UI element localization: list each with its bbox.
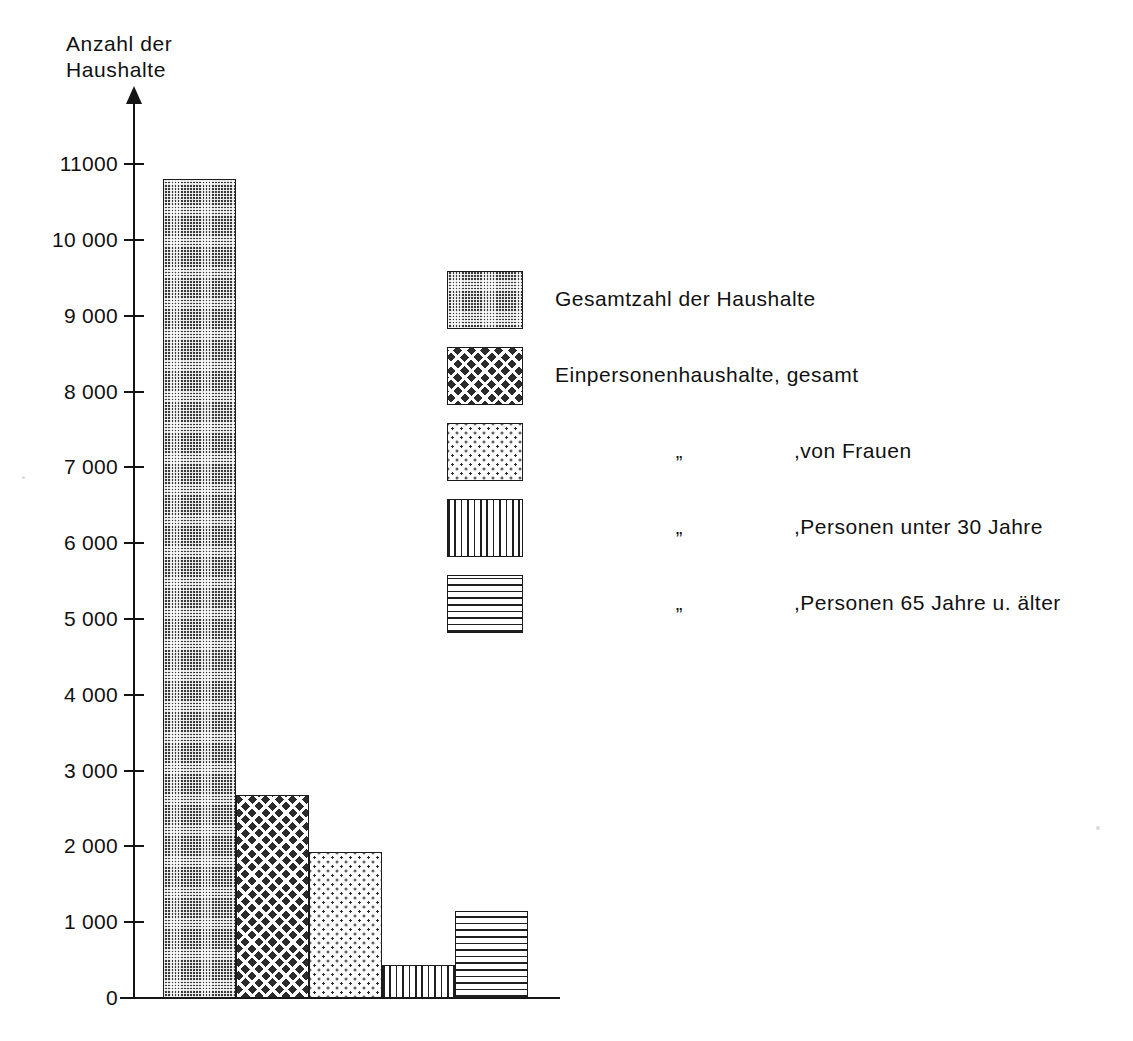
y-axis-tick-label-wrap: 1 000 xyxy=(0,911,118,932)
legend-label: Gesamtzahl der Haushalte xyxy=(555,287,816,311)
y-axis-tick-label: 2 000 xyxy=(22,835,118,856)
legend-ditto-mark: „ xyxy=(659,593,699,613)
legend-swatch-horizontal-lines xyxy=(447,575,523,633)
y-axis-tick-label: 5 000 xyxy=(22,608,118,629)
y-axis-tick-label-wrap: 11000 xyxy=(0,153,118,174)
y-axis-tick-label: 4 000 xyxy=(22,684,118,705)
legend-swatch-vertical-lines xyxy=(447,499,523,557)
legend-item: „,Personen 65 Jahre u. älter xyxy=(447,575,1107,633)
y-axis-tick-label: 0 xyxy=(22,987,118,1008)
legend-ditto-mark: „ xyxy=(659,517,699,537)
y-axis-tick xyxy=(124,466,144,468)
y-axis-tick xyxy=(124,770,144,772)
legend-ditto-mark: „ xyxy=(659,441,699,461)
legend-label: ,von Frauen xyxy=(794,439,912,463)
bar-2 xyxy=(236,795,309,998)
scan-speck xyxy=(1096,826,1100,830)
legend-item: Einpersonenhaushalte, gesamt xyxy=(447,347,1107,405)
y-axis-tick xyxy=(124,845,144,847)
y-axis-title: Anzahl derHaushalte xyxy=(66,31,172,83)
bar-1 xyxy=(163,179,236,998)
y-axis-tick-label-wrap: 6 000 xyxy=(0,532,118,553)
legend-swatch-dark-checker xyxy=(447,271,523,329)
bar-4 xyxy=(382,965,455,998)
y-axis-title-line2: Haushalte xyxy=(66,58,166,81)
y-axis-tick xyxy=(124,239,144,241)
scan-speck xyxy=(22,476,25,479)
legend-label: ,Personen 65 Jahre u. älter xyxy=(794,591,1061,615)
bar-3 xyxy=(309,852,382,998)
y-axis-tick-label: 3 000 xyxy=(22,760,118,781)
y-axis-tick-label: 11000 xyxy=(22,153,118,174)
legend-item: „,Personen unter 30 Jahre xyxy=(447,499,1107,557)
y-axis-tick-label: 9 000 xyxy=(22,305,118,326)
y-axis-line xyxy=(133,96,135,999)
y-axis-tick-label: 1 000 xyxy=(22,911,118,932)
y-axis-tick-label-wrap: 9 000 xyxy=(0,305,118,326)
y-axis-tick-label-wrap: 5 000 xyxy=(0,608,118,629)
y-axis-tick-label-wrap: 0 xyxy=(0,987,118,1008)
y-axis-tick xyxy=(124,694,144,696)
bar-5 xyxy=(455,911,528,998)
y-axis-tick xyxy=(124,997,144,999)
y-axis-tick-label-wrap: 4 000 xyxy=(0,684,118,705)
y-axis-tick xyxy=(124,618,144,620)
legend-label: ,Personen unter 30 Jahre xyxy=(794,515,1043,539)
y-axis-tick xyxy=(124,542,144,544)
y-axis-tick-label-wrap: 8 000 xyxy=(0,381,118,402)
y-axis-tick-label: 10 000 xyxy=(22,229,118,250)
y-axis-tick-label-wrap: 10 000 xyxy=(0,229,118,250)
legend-item: „,von Frauen xyxy=(447,423,1107,481)
y-axis-tick-label: 7 000 xyxy=(22,456,118,477)
y-axis-tick-label-wrap: 3 000 xyxy=(0,760,118,781)
y-axis-tick xyxy=(124,315,144,317)
legend-label: Einpersonenhaushalte, gesamt xyxy=(555,363,859,387)
legend-swatch-cross-hatch xyxy=(447,347,523,405)
y-axis-tick-label: 6 000 xyxy=(22,532,118,553)
legend-swatch-stipple-dots xyxy=(447,423,523,481)
y-axis-tick-label-wrap: 7 000 xyxy=(0,456,118,477)
bar-chart-figure: Anzahl derHaushalte 1100010 0009 0008 00… xyxy=(0,0,1133,1041)
y-axis-tick xyxy=(124,921,144,923)
y-axis-tick xyxy=(124,391,144,393)
y-axis-title-line1: Anzahl der xyxy=(66,32,172,55)
y-axis-tick-label-wrap: 2 000 xyxy=(0,835,118,856)
y-axis-tick xyxy=(124,163,144,165)
legend-item: Gesamtzahl der Haushalte xyxy=(447,271,1107,329)
y-axis-tick-label: 8 000 xyxy=(22,381,118,402)
